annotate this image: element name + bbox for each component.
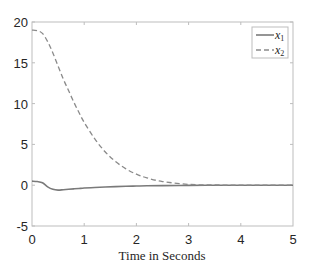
chart: 20 15 10 5 0 -5 0 1 2 3 4 5 Time in Seco…: [0, 0, 311, 269]
x-tick-label: 2: [133, 232, 140, 247]
x-tick-label: 3: [185, 232, 192, 247]
x-axis-label: Time in Seconds: [119, 248, 206, 263]
y-tick-label: 0: [21, 178, 28, 193]
x-tick-label: 1: [81, 232, 88, 247]
x-tick-label: 0: [28, 232, 35, 247]
y-tick-label: 10: [14, 97, 28, 112]
y-tick-label: -5: [16, 219, 28, 234]
y-tick-label: 5: [21, 137, 28, 152]
x-tick-label: 4: [237, 232, 244, 247]
y-tick-label: 20: [14, 15, 28, 30]
x-tick-label: 5: [289, 232, 296, 247]
y-tick-label: 15: [14, 56, 28, 71]
legend: x1 x2: [252, 27, 288, 58]
